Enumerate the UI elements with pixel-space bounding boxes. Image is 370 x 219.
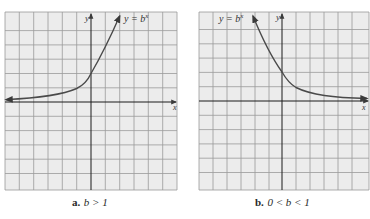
caption-b: b. 0 < b < 1	[255, 196, 310, 209]
graph-panel-b: y x y = bx	[185, 0, 370, 195]
x-axis-label: x	[172, 103, 177, 112]
caption-condition-b: 0 < b < 1	[267, 196, 309, 208]
caption-a: a. b > 1	[72, 196, 108, 209]
y-axis-label: y	[275, 12, 280, 22]
caption-letter-a: a.	[72, 196, 80, 208]
graph-a-svg: y x y = bx	[0, 0, 185, 195]
graph-panel-a: y x y = bx	[0, 0, 185, 195]
y-axis-label: y	[84, 13, 89, 23]
graph-b-svg: y x y = bx	[185, 0, 370, 195]
x-axis-label: x	[361, 103, 366, 112]
caption-letter-b: b.	[255, 196, 264, 208]
caption-condition-a: b > 1	[84, 196, 108, 208]
